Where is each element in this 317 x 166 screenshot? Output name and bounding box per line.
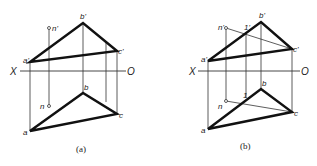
- point-n-prime-b: [225, 27, 228, 30]
- label-n: n: [40, 102, 45, 111]
- label-a: a: [23, 128, 28, 137]
- projection-diagram: X O a' b' c' n' a b c n (a) X O: [0, 0, 317, 166]
- label-1: 1: [243, 91, 247, 100]
- panel-a: X O a' b' c' n' a b c n (a): [9, 12, 135, 154]
- label-a-b: a: [201, 126, 206, 135]
- label-b-b: b: [262, 79, 267, 88]
- point-n-a: [48, 105, 51, 108]
- label-n-prime: n': [52, 24, 58, 33]
- label-b: b: [84, 83, 89, 92]
- label-a-prime: a': [23, 56, 29, 65]
- axis-label-x-b: X: [188, 66, 196, 77]
- label-a-prime-b: a': [201, 55, 207, 64]
- panel-b: X O a' b' c' n' 1' a b c n 1 (b): [188, 11, 309, 151]
- triangle-front-view-a: [30, 23, 117, 62]
- point-n-prime-a: [48, 27, 51, 30]
- triangle-top-view-a: [30, 93, 117, 131]
- label-1-prime: 1': [244, 23, 250, 32]
- caption-a: (a): [76, 144, 86, 154]
- caption-b: (b): [240, 141, 251, 151]
- point-n-b: [225, 100, 228, 103]
- label-n-prime-b: n': [218, 23, 224, 32]
- label-n-b: n: [218, 102, 223, 111]
- label-c: c: [119, 111, 123, 120]
- label-c-prime-b: c': [293, 45, 299, 54]
- label-b-prime-b: b': [259, 11, 265, 20]
- aux-line-front: [226, 28, 292, 49]
- label-c-prime: c': [118, 47, 124, 56]
- axis-label-o-a: O: [127, 66, 135, 77]
- axis-label-x-a: X: [9, 66, 17, 77]
- label-b-prime: b': [80, 12, 86, 21]
- label-c-b: c: [294, 109, 298, 118]
- axis-label-o-b: O: [301, 66, 309, 77]
